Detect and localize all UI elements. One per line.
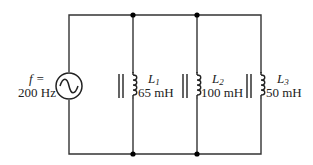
inductor-l2-value: 100 mH [201, 86, 243, 100]
inductor-l1-value: 65 mH [138, 86, 174, 100]
circuit-diagram: f = 200 Hz L1 65 mH L2 100 mH L3 50 mH [0, 0, 313, 165]
inductor-l3-value: 50 mH [266, 86, 302, 100]
source-frequency-value: 200 Hz [18, 86, 56, 100]
source-frequency-label: f = [29, 72, 45, 86]
